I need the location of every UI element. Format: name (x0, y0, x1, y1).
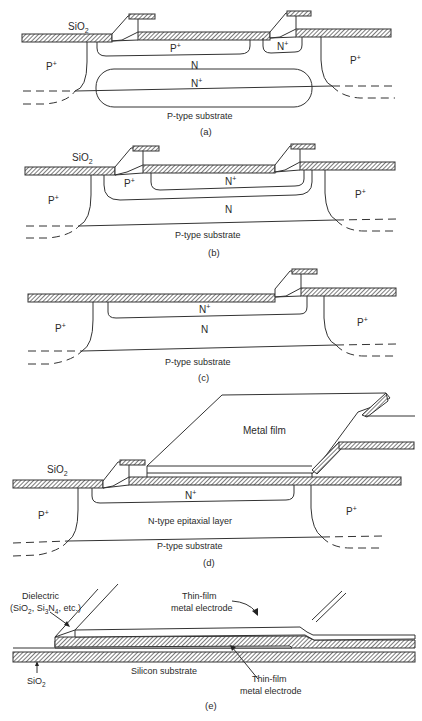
ic-cross-section-figure: SiO2 P+ P+ P+ N+ N N+ P-type substrate (… (0, 0, 422, 721)
oxide-label: SiO2 (27, 676, 46, 688)
dielectric-label-line2: (SiO2, Si3N4, etc.) (10, 603, 81, 615)
metal-lead (339, 442, 414, 449)
panel-b: SiO2 P+ P+ P+ N+ N P-type substrate (b) (25, 144, 397, 258)
right-isolation-label: P+ (350, 54, 361, 66)
top-electrode-label-line1: Thin-film (182, 591, 217, 601)
right-isolation-label: P+ (355, 188, 366, 200)
n-emitter-label: N+ (225, 175, 236, 187)
left-isolation-label: P+ (46, 60, 57, 72)
dielectric-pointer (50, 612, 68, 625)
panel-e: Dielectric (SiO2, Si3N4, etc.) Thin-film… (10, 584, 415, 711)
panel-caption: (e) (205, 700, 217, 711)
oxide-layer-right (296, 29, 391, 37)
panel-a: SiO2 P+ P+ P+ N+ N N+ P-type substrate (… (22, 11, 395, 137)
n-region-label: N (225, 204, 232, 215)
right-isolation-label: P+ (357, 316, 368, 328)
n-region-label: N (191, 60, 198, 71)
oxide-layer-right (129, 477, 401, 485)
left-isolation-label: P+ (38, 509, 49, 521)
substrate-label: Silicon substrate (131, 666, 197, 676)
left-isolation-boundary (82, 302, 93, 351)
epi-substrate-junction (82, 345, 336, 351)
n-diffusion-label: N+ (185, 489, 196, 501)
metal-film-label: Metal film (243, 425, 286, 436)
oxide-label: SiO2 (72, 152, 93, 165)
oxide-layer-right (300, 162, 395, 170)
oxide-layer-right (301, 288, 396, 296)
left-isolation-boundary (68, 488, 78, 541)
oxide-label: SiO2 (68, 21, 89, 34)
oxide-layer-left (22, 34, 112, 42)
substrate-label: P-type substrate (167, 111, 233, 121)
dielectric-label-line1: Dielectric (22, 591, 60, 601)
panel-c: P+ P+ N+ N P-type substrate (c) (28, 269, 396, 383)
right-isolation-boundary (325, 170, 336, 220)
right-isolation-boundary (324, 296, 336, 345)
p-diffusion-label: P+ (170, 42, 181, 54)
left-isolation-label: P+ (55, 322, 66, 334)
top-electrode-label-line2: metal electrode (171, 603, 233, 613)
right-isolation-boundary (311, 485, 322, 537)
panel-caption: (c) (198, 372, 209, 383)
substrate-label: P-type substrate (175, 230, 241, 240)
panel-caption: (a) (200, 126, 212, 137)
oxide-layer-middle (138, 32, 270, 40)
silicon-substrate (13, 652, 415, 662)
n-region-label: N (201, 324, 208, 335)
epi-layer-label: N-type epitaxial layer (148, 516, 232, 526)
buried-layer-label: N+ (191, 77, 202, 89)
p-base-region (104, 170, 312, 200)
oxide-label: SiO2 (47, 464, 68, 477)
epi-substrate-junction (75, 86, 332, 91)
oxide-layer-left (25, 167, 115, 175)
left-isolation-boundary (79, 175, 91, 226)
panel-caption: (d) (203, 557, 215, 568)
oxide-layer-left (13, 480, 103, 488)
substrate-label: P-type substrate (157, 541, 223, 551)
epi-substrate-junction (79, 220, 336, 226)
right-isolation-boundary (321, 37, 332, 86)
n-diffusion-label: N+ (277, 40, 288, 52)
left-isolation-boundary (75, 42, 87, 91)
panel-caption: (b) (208, 247, 220, 258)
p-base-label: P+ (124, 177, 135, 189)
panel-d: SiO2 Metal film P+ P+ N+ N-type epitaxia… (13, 393, 415, 568)
left-isolation-label: P+ (48, 194, 59, 206)
substrate-label: P-type substrate (165, 357, 231, 367)
oxide-layer-left (28, 294, 275, 302)
right-isolation-label: P+ (346, 505, 357, 517)
top-electrode-pointer (232, 601, 256, 612)
bottom-electrode-label-line1: Thin-film (252, 674, 287, 684)
bottom-electrode-label-line2: metal electrode (240, 686, 302, 696)
n-diffusion-label: N+ (199, 303, 210, 315)
oxide-layer-middle (143, 165, 275, 173)
